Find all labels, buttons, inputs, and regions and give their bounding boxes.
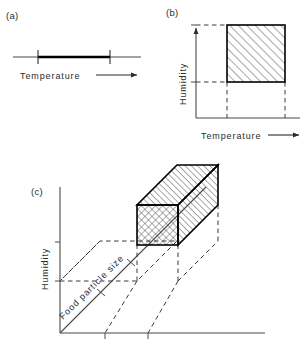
panel-c: (c) xyxy=(31,165,265,339)
panel-c-shadow-left-edge xyxy=(60,241,100,281)
panel-b: (b) Humidity Temperature xyxy=(166,7,300,141)
panel-a-temperature-label: Temperature xyxy=(20,71,80,81)
panel-b-temperature-label: Temperature xyxy=(201,131,261,141)
panel-c-label: (c) xyxy=(31,186,43,197)
panel-c-shadow-right-edge xyxy=(178,241,218,281)
figure-root: (a) Temperature (b) xyxy=(0,0,302,349)
panel-c-particle-size-label: Food particle size xyxy=(57,253,125,321)
panel-a: (a) Temperature xyxy=(6,10,141,81)
panel-c-projection-temp-right xyxy=(148,281,178,333)
panel-c-box-front-fill xyxy=(137,205,178,245)
panel-c-humidity-label: Humidity xyxy=(40,248,50,290)
three-panel-figure: (a) Temperature (b) xyxy=(0,0,302,349)
panel-b-label: (b) xyxy=(166,7,179,18)
panel-c-projection-temp-left xyxy=(105,281,137,333)
panel-b-humidity-label: Humidity xyxy=(178,63,188,105)
panel-b-region-fill xyxy=(227,25,285,82)
panel-a-label: (a) xyxy=(6,10,19,21)
